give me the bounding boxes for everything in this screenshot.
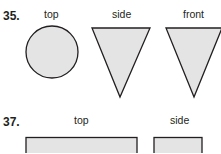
side-view-triangle xyxy=(92,28,150,97)
front-view-triangle xyxy=(166,28,221,97)
side-view-rectangle xyxy=(154,138,202,154)
top-view-rectangle xyxy=(26,138,137,154)
orthographic-views-diagram xyxy=(0,0,221,153)
top-view-circle xyxy=(26,26,78,78)
